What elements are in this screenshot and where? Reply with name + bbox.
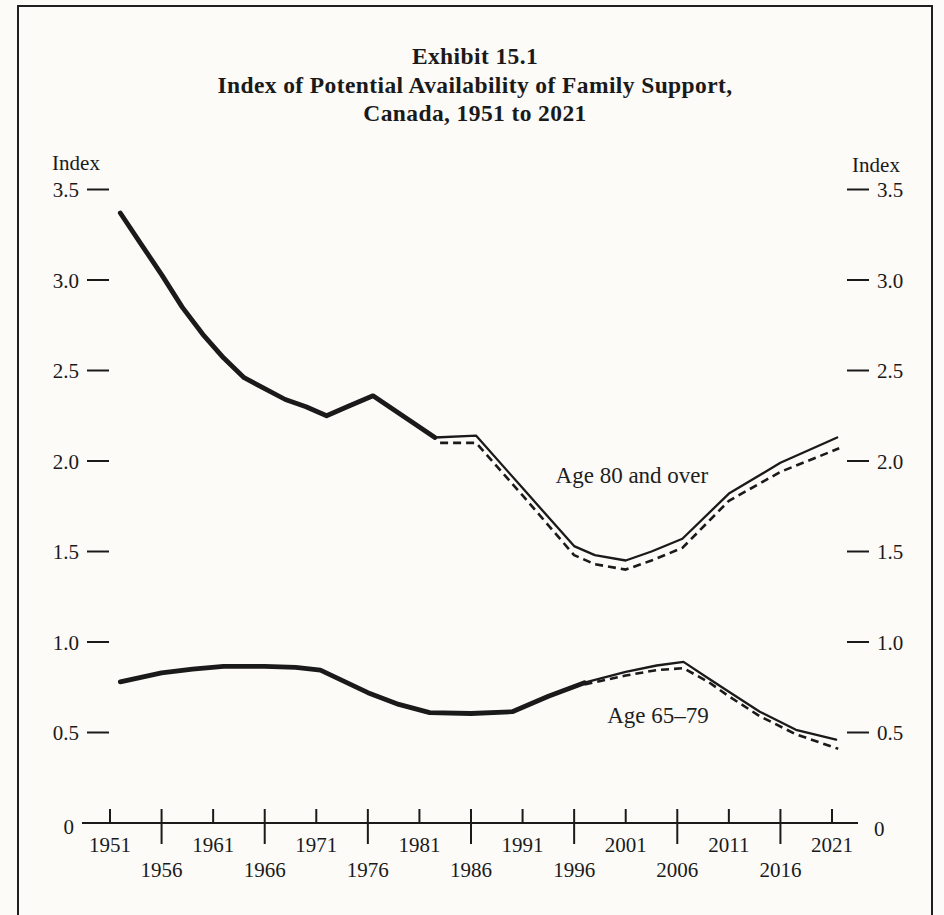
series-label-1: Age 65–79 [607, 703, 709, 728]
right-tick-label-3.0: 3.0 [877, 269, 903, 293]
title-line-1: Exhibit 15.1 [412, 43, 538, 69]
right-tick-label-3.5: 3.5 [877, 178, 903, 202]
data-series [120, 213, 839, 749]
figure-frame [18, 5, 932, 915]
title-line-2: Index of Potential Availability of Famil… [217, 72, 732, 98]
right-tick-label-1.0: 1.0 [877, 631, 903, 655]
x-tick-label-2006: 2006 [656, 858, 698, 882]
x-axis: 1951196119711981199120012011202119561966… [82, 809, 858, 882]
right-tick-label-2.0: 2.0 [877, 450, 903, 474]
left-axis-title: Index [52, 151, 100, 175]
x-tick-label-1996: 1996 [553, 858, 595, 882]
x-tick-label-1986: 1986 [450, 858, 492, 882]
left-zero-label: 0 [64, 815, 75, 839]
left-tick-label-3.5: 3.5 [53, 178, 79, 202]
title-line-3: Canada, 1951 to 2021 [363, 100, 586, 126]
right-tick-label-1.5: 1.5 [877, 540, 903, 564]
series-labels: Age 80 and overAge 65–79 [556, 463, 709, 729]
x-tick-label-1951: 1951 [89, 833, 131, 857]
chart-canvas: Exhibit 15.1 Index of Potential Availabi… [0, 0, 944, 915]
x-tick-label-2001: 2001 [605, 833, 647, 857]
left-tick-label-1.0: 1.0 [53, 631, 79, 655]
left-tick-label-2.5: 2.5 [53, 359, 79, 383]
x-tick-label-1966: 1966 [244, 858, 286, 882]
x-tick-label-1961: 1961 [192, 833, 234, 857]
x-tick-label-2021: 2021 [811, 833, 853, 857]
right-tick-label-2.5: 2.5 [877, 359, 903, 383]
x-tick-label-2011: 2011 [708, 833, 749, 857]
left-tick-label-1.5: 1.5 [53, 540, 79, 564]
x-tick-label-1971: 1971 [295, 833, 337, 857]
x-axis-ticks: 1951196119711981199120012011202119561966… [89, 809, 853, 882]
series-line-age-80-observed [120, 213, 435, 438]
series-line-age-80-projection-solid [435, 436, 837, 561]
x-tick-label-1956: 1956 [141, 858, 183, 882]
right-tick-label-0.5: 0.5 [877, 721, 903, 745]
right-axis-title: Index [852, 153, 900, 177]
x-tick-label-1981: 1981 [398, 833, 440, 857]
series-line-age-65-79-observed [120, 666, 584, 713]
x-tick-label-2016: 2016 [759, 858, 801, 882]
left-axis-ticks: 3.53.02.52.01.51.00.5 [53, 178, 109, 745]
series-label-0: Age 80 and over [556, 463, 709, 488]
left-tick-label-0.5: 0.5 [53, 721, 79, 745]
chart-title: Exhibit 15.1 Index of Potential Availabi… [217, 43, 732, 126]
x-tick-label-1976: 1976 [347, 858, 389, 882]
left-tick-label-3.0: 3.0 [53, 269, 79, 293]
x-tick-label-1991: 1991 [502, 833, 544, 857]
right-axis-ticks: 3.53.02.52.01.51.00.5 [847, 178, 903, 745]
left-tick-label-2.0: 2.0 [53, 450, 79, 474]
right-zero-label: 0 [874, 817, 885, 841]
exhibit-figure: Exhibit 15.1 Index of Potential Availabi… [0, 0, 944, 915]
